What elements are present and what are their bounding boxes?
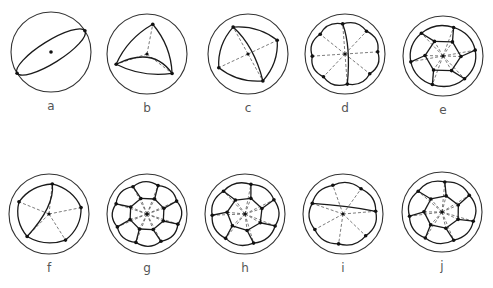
dashed-ray bbox=[147, 24, 153, 54]
cell-edge bbox=[333, 182, 361, 188]
vertex-point bbox=[156, 184, 160, 188]
dashed-ray bbox=[442, 212, 446, 228]
vertex-point bbox=[260, 207, 264, 211]
cell-edge bbox=[224, 191, 236, 200]
vertex-point bbox=[365, 29, 369, 33]
cell-edge bbox=[112, 204, 117, 227]
vertex-point bbox=[275, 39, 279, 43]
cell-edge bbox=[164, 201, 177, 208]
vertex-point bbox=[471, 219, 475, 223]
center-point bbox=[49, 50, 53, 54]
vertex-point bbox=[129, 205, 133, 209]
cell-edge bbox=[251, 198, 262, 208]
cell-edge bbox=[212, 191, 224, 215]
vertex-point bbox=[217, 66, 221, 70]
dashed-ray bbox=[227, 212, 245, 214]
vertex-point bbox=[376, 50, 380, 54]
cell-edge bbox=[19, 184, 52, 202]
cell-edge bbox=[219, 27, 233, 68]
center-point bbox=[243, 212, 246, 215]
cell-edge bbox=[274, 200, 279, 226]
center-point bbox=[441, 54, 444, 57]
vertex-point bbox=[252, 241, 256, 245]
vertex-point bbox=[459, 55, 463, 59]
vertex-point bbox=[170, 72, 174, 76]
cell-edge bbox=[312, 56, 324, 77]
cell-edge bbox=[153, 221, 163, 230]
dashed-ray bbox=[219, 54, 248, 68]
vertex-point bbox=[331, 184, 335, 188]
vertex-point bbox=[116, 225, 120, 229]
sphere-partition-figure: abcdefghij bbox=[0, 0, 493, 288]
cell-edge bbox=[445, 182, 446, 196]
dashed-ray bbox=[324, 54, 345, 77]
vertex-point bbox=[473, 48, 477, 52]
cell-edge bbox=[219, 68, 263, 81]
vertex-point bbox=[234, 198, 238, 202]
cell-edge bbox=[153, 230, 161, 242]
cell-edge bbox=[410, 216, 426, 238]
vertex-point bbox=[273, 224, 277, 228]
cell-edge bbox=[133, 187, 141, 199]
cell-edge bbox=[66, 208, 82, 240]
center-point bbox=[440, 210, 443, 213]
cell-edge bbox=[226, 226, 233, 239]
dashed-ray bbox=[19, 202, 49, 214]
cell-edge bbox=[446, 219, 458, 228]
dashed-ray bbox=[315, 214, 343, 229]
vertex-point bbox=[432, 68, 436, 72]
dashed-ray bbox=[442, 205, 458, 212]
dashed-ray bbox=[431, 212, 442, 225]
cell-edge bbox=[116, 57, 172, 73]
vertex-point bbox=[467, 193, 471, 197]
cell-edge bbox=[312, 203, 375, 211]
cell-edge bbox=[18, 202, 27, 237]
cell-edge bbox=[247, 223, 260, 231]
dashed-ray bbox=[345, 54, 347, 84]
vertex-point bbox=[451, 40, 455, 44]
dashed-ray bbox=[312, 54, 345, 56]
panel-label: j bbox=[439, 259, 443, 273]
vertex-point bbox=[17, 200, 21, 204]
vertex-point bbox=[431, 83, 435, 87]
cell-edge bbox=[446, 196, 458, 205]
vertex-point bbox=[452, 26, 456, 30]
sphere-panel-e: e bbox=[403, 16, 483, 117]
cell-edge bbox=[130, 220, 139, 229]
center-point bbox=[341, 212, 344, 215]
vertex-point bbox=[374, 209, 378, 213]
cell-edge bbox=[116, 204, 131, 207]
vertex-point bbox=[128, 218, 132, 222]
cell-edge bbox=[161, 224, 178, 241]
vertex-point bbox=[249, 197, 253, 201]
vertex-point bbox=[456, 203, 460, 207]
vertex-point bbox=[463, 77, 467, 81]
cell-edge bbox=[370, 52, 379, 74]
dashed-ray bbox=[339, 214, 343, 244]
vertex-point bbox=[210, 213, 214, 217]
vertex-point bbox=[444, 194, 448, 198]
dashed-ray bbox=[320, 34, 345, 54]
cell-edge bbox=[235, 198, 251, 200]
dashed-ray bbox=[49, 214, 66, 240]
dashed-ray bbox=[147, 54, 172, 73]
cell-edge bbox=[418, 181, 445, 191]
panel-label: d bbox=[341, 101, 349, 115]
vertex-point bbox=[231, 25, 235, 29]
cell-edge bbox=[424, 199, 431, 212]
panel-label: h bbox=[241, 261, 249, 275]
vertex-point bbox=[420, 31, 424, 35]
panel-label: c bbox=[245, 101, 252, 115]
cell-edge bbox=[226, 238, 254, 245]
sphere-panel-g: g bbox=[107, 174, 187, 275]
vertex-point bbox=[159, 239, 163, 243]
vertex-point bbox=[313, 228, 317, 232]
vertex-point bbox=[114, 62, 118, 66]
vertex-point bbox=[310, 54, 314, 58]
vertex-point bbox=[15, 71, 19, 75]
dashed-ray bbox=[442, 196, 446, 212]
cell-edge bbox=[130, 207, 131, 220]
vertex-point bbox=[139, 197, 143, 201]
cell-edge bbox=[212, 215, 226, 238]
vertex-point bbox=[245, 229, 249, 233]
